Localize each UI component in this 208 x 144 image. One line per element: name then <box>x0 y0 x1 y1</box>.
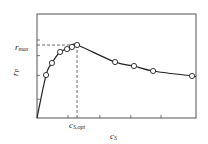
data-point-marker <box>49 60 54 65</box>
y-axis-label: rP <box>11 69 20 76</box>
data-point-marker <box>150 68 155 73</box>
x-axis-label: cS <box>110 132 117 141</box>
data-point-marker <box>43 72 48 77</box>
data-point-marker <box>57 49 62 54</box>
plot-frame <box>37 14 196 118</box>
data-point-marker <box>74 42 79 47</box>
rate-curve <box>37 44 196 118</box>
data-point-marker <box>112 59 117 64</box>
c-s-opt-label: cS,opt <box>69 121 85 130</box>
axis-ticks <box>37 40 161 118</box>
data-point-marker <box>64 46 69 51</box>
data-point-marker <box>189 73 194 78</box>
chart <box>0 0 208 144</box>
data-point-marker <box>131 63 136 68</box>
r-max-label: rmax <box>15 43 29 52</box>
data-point-marker <box>69 44 74 49</box>
